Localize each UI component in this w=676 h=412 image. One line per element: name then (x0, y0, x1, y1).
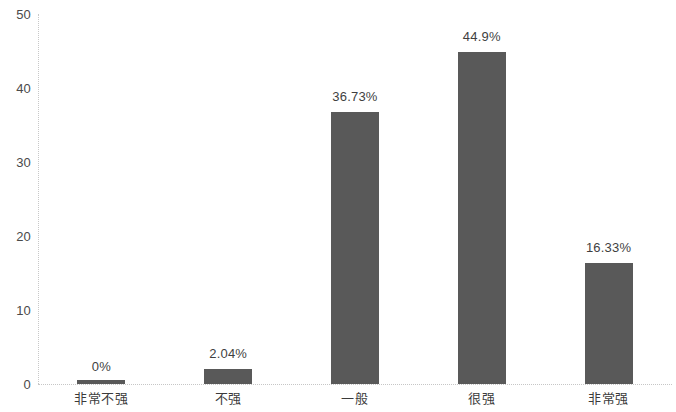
bar-group-3: 44.9% (418, 14, 545, 384)
bar-3[interactable] (458, 52, 506, 384)
y-axis-tick-labels: 50 40 30 20 10 0 (0, 0, 31, 412)
bar-2[interactable] (331, 112, 379, 384)
y-tick-label-10: 10 (16, 303, 31, 318)
y-tick-label-40: 40 (16, 81, 31, 96)
bar-0[interactable] (77, 380, 125, 384)
bar-group-4: 16.33% (545, 14, 672, 384)
bar-column-4: 16.33% 非常强 (545, 0, 672, 412)
bar-1[interactable] (204, 369, 252, 384)
bar-column-1: 2.04% 不强 (165, 0, 292, 412)
x-tick-label-4: 非常强 (588, 388, 629, 407)
x-tick-label-1: 不强 (215, 388, 242, 407)
bar-column-2: 36.73% 一般 (292, 0, 419, 412)
bar-value-label-1: 2.04% (209, 346, 247, 361)
bar-4[interactable] (585, 263, 633, 384)
bar-value-label-3: 44.9% (463, 29, 501, 44)
x-tick-label-3: 很强 (468, 388, 495, 407)
bar-group-2: 36.73% (292, 14, 419, 384)
x-tick-label-2: 一般 (341, 388, 368, 407)
y-tick-label-20: 20 (16, 229, 31, 244)
bar-chart: 50 40 30 20 10 0 0% 非常不强 2.04% 不强 (0, 0, 676, 412)
x-tick-label-0: 非常不强 (74, 388, 128, 407)
y-tick-label-30: 30 (16, 155, 31, 170)
bars-layer: 0% 非常不强 2.04% 不强 36.73% 一般 44.9% 很强 (38, 0, 672, 412)
bar-value-label-4: 16.33% (586, 240, 631, 255)
bar-column-0: 0% 非常不强 (38, 0, 165, 412)
bar-group-0: 0% (38, 14, 165, 384)
bar-value-label-0: 0% (92, 359, 111, 374)
y-tick-label-0: 0 (24, 377, 31, 392)
bar-value-label-2: 36.73% (332, 89, 377, 104)
bar-group-1: 2.04% (165, 14, 292, 384)
y-tick-label-50: 50 (16, 7, 31, 22)
bar-column-3: 44.9% 很强 (418, 0, 545, 412)
